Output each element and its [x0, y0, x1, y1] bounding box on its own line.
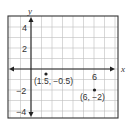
x-axis-label: x — [120, 64, 125, 74]
y-axis-label: y — [27, 6, 32, 16]
y-tick-2: 2 — [22, 44, 27, 54]
x-axis-right-arrow-icon — [110, 67, 115, 72]
y-axis-up-arrow-icon — [29, 17, 34, 22]
y-axis-down-arrow-icon — [29, 112, 34, 117]
point-label-1: (1.5, −0.5) — [34, 76, 73, 86]
x-tick-6: 6 — [92, 72, 97, 82]
coordinate-plane: y x 4 2 −2 −4 6 (1.5, −0.5) (6, −2) — [0, 0, 130, 124]
y-tick-4: 4 — [22, 23, 27, 33]
point-label-2: (6, −2) — [80, 92, 105, 102]
y-tick-neg2: −2 — [16, 86, 26, 96]
y-tick-neg4: −4 — [16, 107, 26, 117]
